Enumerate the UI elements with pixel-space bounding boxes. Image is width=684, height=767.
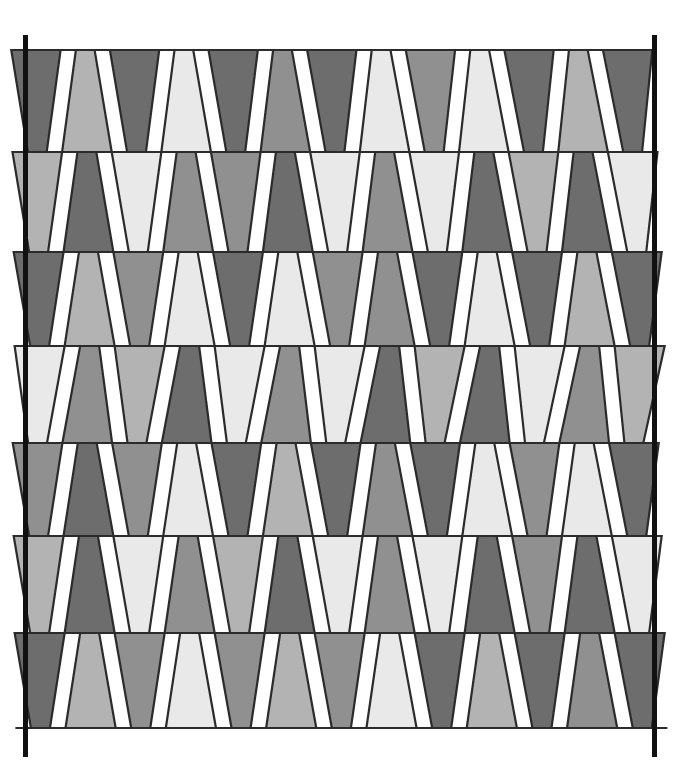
tessellation-canvas bbox=[0, 0, 684, 767]
pattern-figure bbox=[0, 0, 684, 767]
